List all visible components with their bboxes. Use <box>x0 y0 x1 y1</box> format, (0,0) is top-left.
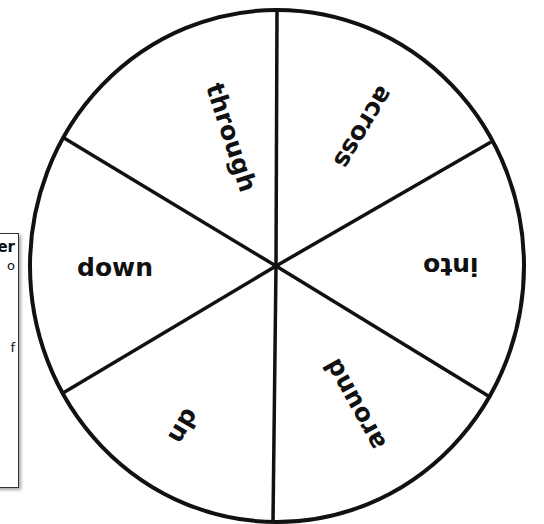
section-label-into: into <box>423 254 479 279</box>
section-label-down: down <box>77 255 153 280</box>
spoke-top <box>276 10 277 266</box>
